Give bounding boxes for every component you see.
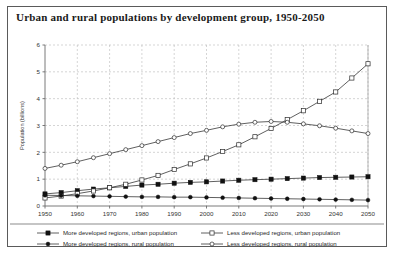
data-point bbox=[91, 156, 95, 160]
y-tick-label: 2 bbox=[37, 149, 41, 156]
x-tick-label: 1970 bbox=[103, 210, 117, 217]
data-point bbox=[108, 186, 112, 190]
x-tick-label: 2020 bbox=[264, 210, 278, 217]
data-point bbox=[205, 196, 209, 200]
data-point bbox=[334, 198, 338, 202]
data-point bbox=[269, 177, 273, 181]
legend-item-label: More developed regions, rural population bbox=[63, 240, 174, 247]
y-tick-label: 6 bbox=[37, 41, 41, 48]
chart-legend: More developed regions, urban population… bbox=[10, 224, 384, 247]
data-point bbox=[43, 193, 47, 197]
y-axis-title-text: Population (billions) bbox=[19, 101, 25, 150]
data-point bbox=[334, 175, 338, 179]
data-point bbox=[91, 189, 95, 193]
data-point bbox=[188, 180, 192, 184]
data-point bbox=[156, 173, 160, 177]
data-point bbox=[188, 162, 192, 166]
chart-figure: Urban and rural populations by developme… bbox=[0, 0, 394, 254]
data-point bbox=[285, 177, 289, 181]
data-point bbox=[334, 90, 338, 94]
x-tick-label: 2050 bbox=[361, 210, 375, 217]
y-tick-label: 3 bbox=[37, 122, 41, 129]
data-point bbox=[253, 178, 257, 182]
legend-item-1[interactable]: Less developed regions, urban population bbox=[201, 229, 340, 236]
data-point bbox=[188, 132, 192, 136]
data-point bbox=[366, 198, 370, 202]
data-point bbox=[301, 122, 305, 126]
data-point bbox=[317, 99, 321, 103]
x-axis-tick-labels: 1950196019701980199020002010202020302040… bbox=[38, 210, 375, 217]
data-point bbox=[75, 160, 79, 164]
legend-item-label: More developed regions, urban population bbox=[63, 229, 177, 236]
y-tick-label: 4 bbox=[37, 95, 41, 102]
data-point bbox=[318, 124, 322, 128]
data-point bbox=[253, 196, 257, 200]
data-point bbox=[172, 167, 176, 171]
x-tick-label: 1950 bbox=[38, 210, 52, 217]
data-point bbox=[302, 197, 306, 201]
data-point bbox=[253, 120, 257, 124]
data-point bbox=[204, 180, 208, 184]
y-tick-label: 5 bbox=[37, 68, 41, 75]
data-point bbox=[156, 195, 160, 199]
data-point bbox=[59, 163, 63, 167]
x-tick-label: 2010 bbox=[232, 210, 246, 217]
y-tick-label: 1 bbox=[37, 175, 41, 182]
data-point bbox=[237, 122, 241, 126]
x-tick-label: 2000 bbox=[200, 210, 214, 217]
data-point bbox=[317, 175, 321, 179]
data-point bbox=[92, 194, 96, 198]
legend-marker-filled-square-icon bbox=[46, 231, 50, 235]
y-axis-tick-labels: 0123456 bbox=[37, 41, 41, 209]
data-point bbox=[140, 178, 144, 182]
data-point bbox=[237, 178, 241, 182]
data-point bbox=[221, 196, 225, 200]
line-chart: 0123456 19501960197019801990200020102020… bbox=[0, 0, 394, 254]
data-point bbox=[221, 179, 225, 183]
legend-marker-open-circle-icon bbox=[210, 242, 214, 246]
x-tick-label: 2030 bbox=[297, 210, 311, 217]
data-point bbox=[269, 197, 273, 201]
data-point bbox=[285, 197, 289, 201]
data-point bbox=[75, 194, 79, 198]
data-point bbox=[318, 197, 322, 201]
data-point bbox=[350, 198, 354, 202]
data-point bbox=[124, 195, 128, 199]
data-point bbox=[43, 166, 47, 170]
data-point bbox=[156, 140, 160, 144]
data-point bbox=[350, 175, 354, 179]
data-point bbox=[108, 152, 112, 156]
x-tick-label: 1960 bbox=[70, 210, 84, 217]
legend-item-3[interactable]: Less developed regions, rural population bbox=[201, 240, 337, 247]
x-tick-label: 2040 bbox=[329, 210, 343, 217]
y-tick-label: 0 bbox=[37, 202, 41, 209]
data-point bbox=[140, 144, 144, 148]
data-point bbox=[204, 156, 208, 160]
data-point bbox=[205, 128, 209, 132]
legend-item-2[interactable]: More developed regions, rural population bbox=[37, 240, 174, 247]
data-point bbox=[124, 148, 128, 152]
data-point bbox=[188, 195, 192, 199]
data-point bbox=[108, 194, 112, 198]
data-point bbox=[59, 194, 63, 198]
legend-marker-open-square-icon bbox=[210, 231, 214, 235]
data-point bbox=[237, 196, 241, 200]
x-tick-label: 1980 bbox=[135, 210, 149, 217]
legend-item-0[interactable]: More developed regions, urban population bbox=[37, 229, 177, 236]
data-point bbox=[156, 182, 160, 186]
data-point bbox=[366, 62, 370, 66]
data-point bbox=[350, 129, 354, 133]
data-point bbox=[172, 195, 176, 199]
data-point bbox=[124, 182, 128, 186]
data-point bbox=[334, 126, 338, 130]
legend-item-label: Less developed regions, urban population bbox=[227, 229, 340, 236]
data-point bbox=[301, 109, 305, 113]
data-point bbox=[301, 176, 305, 180]
data-point bbox=[366, 132, 370, 136]
data-point bbox=[285, 120, 289, 124]
x-tick-label: 1990 bbox=[167, 210, 181, 217]
data-point bbox=[221, 149, 225, 153]
data-point bbox=[366, 175, 370, 179]
data-point bbox=[172, 136, 176, 140]
data-point bbox=[140, 183, 144, 187]
